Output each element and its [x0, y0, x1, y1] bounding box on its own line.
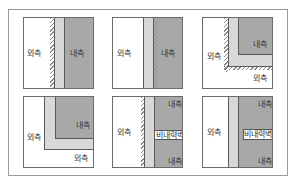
wall-dark-layer: [55, 96, 94, 139]
non-bearing-wall-section: 비내력벽: [155, 130, 183, 140]
label-outside-left: 외측: [207, 52, 221, 61]
insulation-hatch: [154, 18, 158, 89]
panel-1: 외측 내측: [23, 17, 94, 89]
wall-dark-layer: [238, 17, 273, 55]
label-inside-bottom: 내측: [258, 157, 272, 166]
label-outside: 외측: [27, 49, 41, 58]
label-outside: 외측: [117, 128, 131, 137]
label-inside: 내측: [70, 49, 84, 58]
panel-3: 내측 외측 외측: [202, 17, 273, 89]
label-inside-bottom: 내측: [168, 157, 182, 166]
panel-2: 외측 내측: [112, 17, 183, 89]
panel-6: 비내력벽 외측 내측 내측: [202, 96, 273, 168]
label-outside: 외측: [117, 49, 131, 58]
label-inside: 내측: [253, 40, 267, 49]
label-outside: 외측: [207, 128, 221, 137]
label-outside-left: 외측: [27, 133, 41, 142]
label-non-bearing: 비내력벽: [156, 131, 184, 140]
label-non-bearing: 비내력벽: [244, 130, 272, 139]
label-inside: 내측: [161, 49, 175, 58]
panel-5: 비내력벽 외측 내측 내측: [112, 96, 183, 168]
label-outside-bottom: 외측: [253, 74, 267, 83]
label-outside-bottom: 외측: [74, 154, 88, 163]
label-inside: 내측: [76, 121, 90, 130]
panel-4: 내측 외측 외측: [23, 96, 94, 168]
label-inside-top: 내측: [258, 100, 272, 109]
non-bearing-wall-box: 비내력벽: [243, 129, 273, 140]
label-inside-top: 내측: [168, 100, 182, 109]
